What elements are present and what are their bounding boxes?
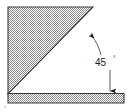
bar-shape: [8, 94, 124, 104]
angle-diagram-svg: 45 °: [0, 0, 131, 112]
angle-value-label: 45: [95, 57, 107, 68]
figure-container: 45 °: [0, 0, 131, 112]
scan-speck: [4, 106, 6, 108]
hatched-right-triangle: [8, 7, 93, 94]
hatched-horizontal-bar: [8, 94, 124, 104]
triangle-shape: [8, 7, 93, 94]
upper-leader-arrow-icon: [91, 35, 102, 56]
degree-symbol-label: °: [113, 55, 116, 62]
